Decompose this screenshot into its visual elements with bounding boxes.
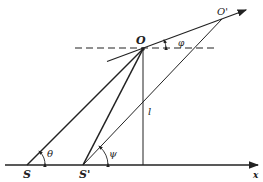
label-l: l bbox=[148, 106, 151, 117]
label-S: S bbox=[23, 168, 31, 181]
diagram: S S' O O' x l θ ψ φ bbox=[0, 0, 263, 182]
label-psi: ψ bbox=[109, 148, 117, 159]
label-O-prime: O' bbox=[217, 6, 228, 17]
label-x-axis: x bbox=[252, 170, 259, 180]
label-phi: φ bbox=[178, 38, 185, 48]
geometry-figure: S S' O O' x l θ ψ φ bbox=[0, 0, 263, 182]
label-O: O bbox=[136, 34, 146, 47]
trajectory-line bbox=[107, 10, 246, 62]
phi-arc bbox=[165, 41, 167, 48]
psi-arc bbox=[100, 147, 108, 165]
theta-arc bbox=[40, 152, 45, 165]
point-O bbox=[141, 47, 145, 51]
label-theta: θ bbox=[47, 148, 53, 159]
label-S-prime: S' bbox=[79, 168, 90, 181]
line-Sprime-Oprime bbox=[83, 19, 222, 165]
line-S-O bbox=[27, 49, 143, 165]
